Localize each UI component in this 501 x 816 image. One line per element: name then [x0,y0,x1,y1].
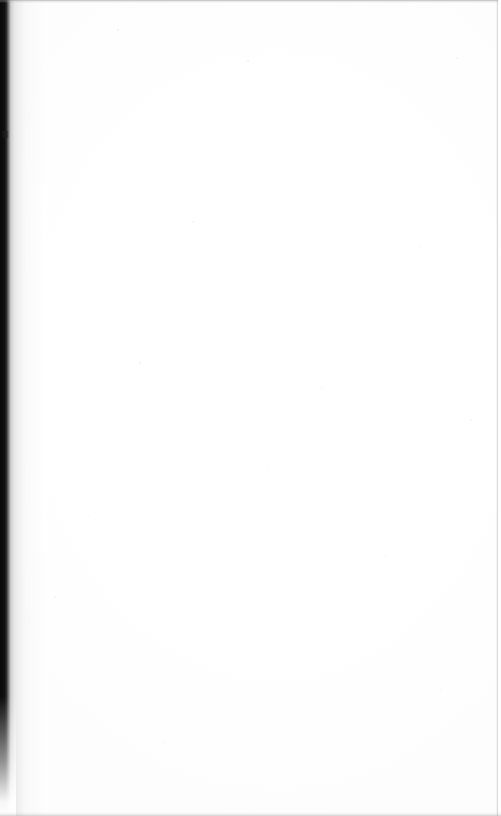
scanned-page [0,0,501,816]
bottom-edge-line [0,812,501,816]
page-content-area [16,0,496,812]
